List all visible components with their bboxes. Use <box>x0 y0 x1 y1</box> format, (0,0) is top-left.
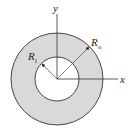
inner-radius-label: R <box>27 50 35 62</box>
y-axis-label: y <box>52 2 58 14</box>
inner-radius-subscript: i <box>35 57 37 65</box>
outer-radius-label: R <box>90 36 98 48</box>
outer-radius-subscript: o <box>98 43 102 51</box>
x-axis-label: x <box>119 73 125 85</box>
annulus-diagram: y x R i R o <box>0 0 132 137</box>
